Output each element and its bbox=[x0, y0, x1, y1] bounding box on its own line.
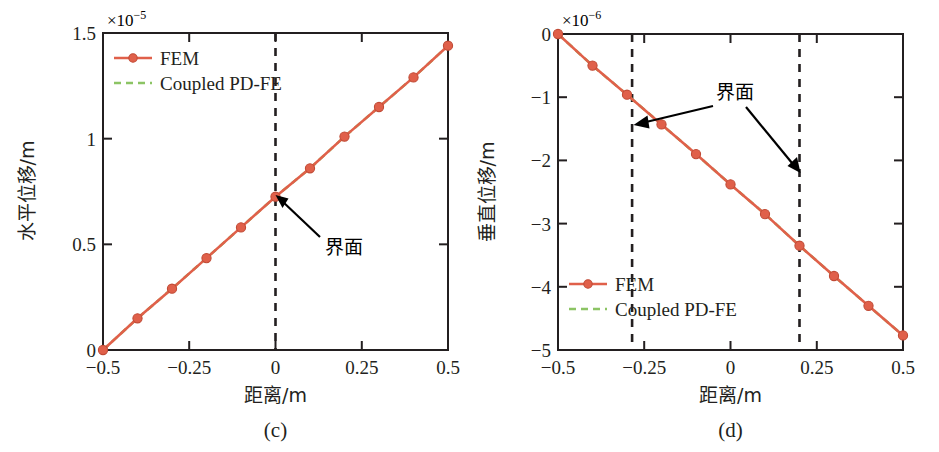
svg-text:−0.25: −0.25 bbox=[622, 357, 666, 378]
svg-text:0.5: 0.5 bbox=[436, 357, 460, 378]
panel-c-svg: ×10−5 bbox=[0, 0, 469, 452]
svg-text:1: 1 bbox=[87, 129, 97, 150]
legend-c: FEM Coupled PD-FE bbox=[114, 48, 282, 94]
legend-marker-fem bbox=[129, 54, 137, 62]
svg-text:0: 0 bbox=[271, 357, 281, 378]
legend-marker-fem bbox=[584, 280, 592, 288]
y-axis-label: 水平位移/m bbox=[16, 141, 38, 242]
interface-annotation-c: 界面 bbox=[276, 195, 364, 258]
svg-text:−0.25: −0.25 bbox=[167, 357, 211, 378]
svg-text:0.5: 0.5 bbox=[72, 234, 96, 255]
svg-text:1.5: 1.5 bbox=[72, 23, 96, 44]
legend-label-fem: FEM bbox=[615, 274, 654, 295]
svg-text:−5: −5 bbox=[531, 340, 551, 361]
legend-d: FEM Coupled PD-FE bbox=[569, 274, 737, 320]
svg-text:−3: −3 bbox=[531, 214, 551, 235]
interface-annotation-label-d: 界面 bbox=[716, 81, 754, 103]
x-tick-labels: −0.5 −0.25 0 0.25 0.5 bbox=[86, 357, 460, 378]
svg-text:−4: −4 bbox=[531, 277, 552, 298]
legend-label-coupled-pdfe: Coupled PD-FE bbox=[615, 299, 737, 320]
panel-d-svg: ×10−6 bbox=[470, 0, 939, 452]
y-tick-labels: 0 −1 −2 −3 −4 −5 bbox=[531, 24, 552, 361]
chart-panel-c: ×10−5 bbox=[0, 0, 469, 452]
panel-caption-d: (d) bbox=[718, 418, 743, 442]
svg-text:0: 0 bbox=[542, 24, 552, 45]
y-axis-label: 垂直位移/m bbox=[476, 142, 498, 243]
legend-label-coupled-pdfe: Coupled PD-FE bbox=[160, 73, 282, 94]
svg-text:−1: −1 bbox=[531, 87, 551, 108]
figure-container: ×10−5 bbox=[0, 0, 939, 452]
svg-text:0.25: 0.25 bbox=[345, 357, 378, 378]
svg-text:0: 0 bbox=[87, 340, 97, 361]
panel-caption-c: (c) bbox=[264, 418, 287, 442]
y-axis-exponent-label: ×10−5 bbox=[107, 8, 146, 30]
x-tick-labels: −0.5 −0.25 0 0.25 0.5 bbox=[541, 357, 915, 378]
svg-text:−2: −2 bbox=[531, 150, 551, 171]
svg-text:0: 0 bbox=[726, 357, 736, 378]
interface-annotation-label-c: 界面 bbox=[325, 236, 363, 258]
x-axis-label: 距离/m bbox=[699, 384, 762, 406]
svg-text:0.25: 0.25 bbox=[800, 357, 833, 378]
x-axis-label: 距离/m bbox=[244, 384, 307, 406]
chart-panel-d: ×10−6 bbox=[470, 0, 939, 452]
y-tick-labels: 0 0.5 1 1.5 bbox=[72, 23, 96, 361]
svg-text:0.5: 0.5 bbox=[891, 357, 915, 378]
y-axis-exponent-label: ×10−6 bbox=[562, 8, 601, 30]
legend-label-fem: FEM bbox=[160, 48, 199, 69]
